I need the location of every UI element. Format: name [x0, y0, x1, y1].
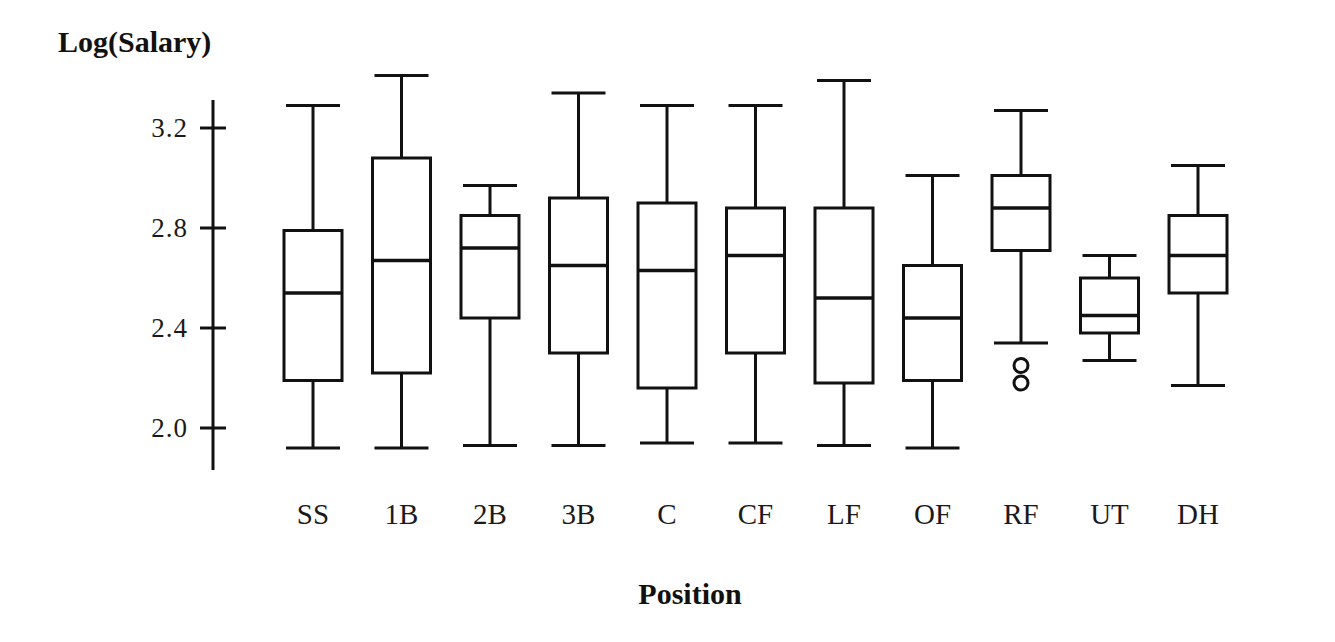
- boxplot-2b: [461, 186, 519, 446]
- x-axis-label-of: OF: [914, 498, 951, 530]
- y-axis-tick-label: 2.0: [151, 413, 188, 443]
- iqr-box: [727, 208, 785, 353]
- x-axis-label-ss: SS: [297, 498, 329, 530]
- x-axis-label-c: C: [657, 498, 676, 530]
- boxplot-of: [904, 176, 962, 449]
- y-axis-tick-label: 2.4: [151, 313, 188, 343]
- boxplot-figure: 3.22.82.42.0 SS1B2B3BCCFLFOFRFUTDH Log(S…: [0, 0, 1335, 642]
- y-axis-tick-label: 2.8: [151, 213, 188, 243]
- iqr-box: [1081, 278, 1139, 333]
- x-axis-label-1b: 1B: [385, 498, 419, 530]
- boxplot-rf: [992, 111, 1050, 391]
- boxplot-3b: [550, 93, 608, 446]
- iqr-box: [373, 158, 431, 373]
- boxplot-c: [638, 106, 696, 444]
- iqr-box: [904, 266, 962, 381]
- iqr-box: [284, 231, 342, 381]
- iqr-box: [815, 208, 873, 383]
- boxplot-ut: [1081, 256, 1139, 361]
- box-series: [284, 76, 1227, 449]
- x-axis-label-cf: CF: [738, 498, 773, 530]
- x-axis-label-dh: DH: [1177, 498, 1219, 530]
- outlier-marker: [1014, 376, 1028, 390]
- boxplot-lf: [815, 81, 873, 446]
- x-axis-label-ut: UT: [1090, 498, 1129, 530]
- plot-canvas: 3.22.82.42.0 SS1B2B3BCCFLFOFRFUTDH: [0, 0, 1335, 642]
- x-axis-category-labels: SS1B2B3BCCFLFOFRFUTDH: [297, 498, 1219, 530]
- iqr-box: [461, 216, 519, 319]
- boxplot-cf: [727, 106, 785, 444]
- iqr-box: [550, 198, 608, 353]
- iqr-box: [638, 203, 696, 388]
- boxplot-ss: [284, 106, 342, 449]
- boxplot-1b: [373, 76, 431, 449]
- y-axis-tick-labels: 3.22.82.42.0: [151, 113, 188, 443]
- y-axis-tick-label: 3.2: [151, 113, 188, 143]
- outlier-marker: [1014, 359, 1028, 373]
- x-axis-label-rf: RF: [1003, 498, 1038, 530]
- x-axis-label-2b: 2B: [473, 498, 507, 530]
- x-axis-label-lf: LF: [827, 498, 861, 530]
- boxplot-dh: [1169, 166, 1227, 386]
- x-axis-label-3b: 3B: [562, 498, 596, 530]
- iqr-box: [992, 176, 1050, 251]
